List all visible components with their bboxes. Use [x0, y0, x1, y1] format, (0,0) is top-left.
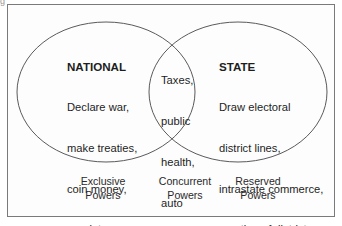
national-heading: NATIONAL: [67, 60, 143, 74]
state-line: district lines,: [219, 142, 323, 156]
national-line: Declare war,: [67, 101, 143, 115]
concurrent-line: Taxes,: [161, 74, 195, 88]
state-heading: STATE: [219, 60, 323, 74]
concurrent-line: health,: [161, 156, 195, 170]
concurrent-line: public: [161, 115, 195, 129]
caption-line: Reserved: [223, 175, 293, 189]
caption-line: Powers: [68, 189, 138, 203]
national-line: make treaties,: [67, 142, 143, 156]
reserved-powers-caption: Reserved Powers: [223, 175, 293, 202]
state-line: Draw electoral: [219, 101, 323, 115]
exclusive-powers-caption: Exclusive Powers: [68, 175, 138, 202]
caption-line: Powers: [223, 189, 293, 203]
national-line: regulate: [67, 223, 143, 226]
concurrent-powers-caption: Concurrent Powers: [145, 175, 225, 202]
caption-line: Concurrent: [145, 175, 225, 189]
caption-line: Powers: [145, 189, 225, 203]
caption-line: Exclusive: [68, 175, 138, 189]
state-line: creation of districts: [219, 223, 323, 226]
